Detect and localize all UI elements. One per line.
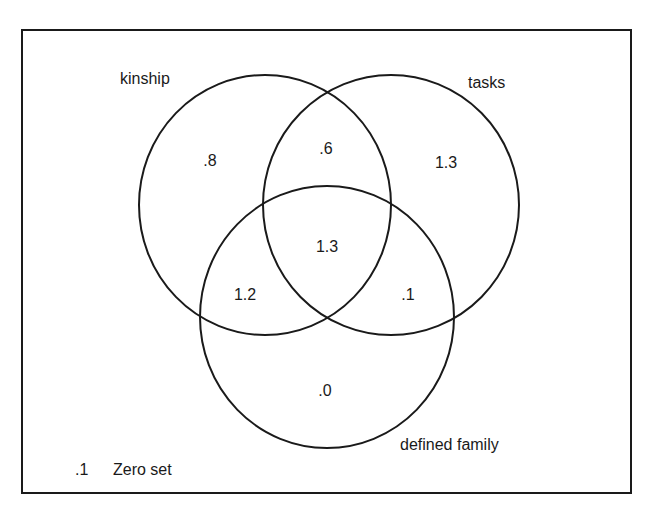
region-tasks-only: 1.3 bbox=[435, 154, 457, 171]
set-label-tasks: tasks bbox=[468, 74, 505, 91]
set-label-kinship: kinship bbox=[120, 70, 170, 87]
region-family-only: .0 bbox=[318, 382, 331, 399]
legend-label: Zero set bbox=[113, 461, 172, 478]
region-all-three: 1.3 bbox=[316, 238, 338, 255]
kinship-circle bbox=[139, 75, 391, 335]
region-kinship-only: .8 bbox=[203, 152, 216, 169]
region-kinship-family: 1.2 bbox=[234, 286, 256, 303]
venn-diagram: kinship tasks defined family .8 .6 1.3 1… bbox=[0, 0, 654, 517]
region-tasks-family: .1 bbox=[401, 286, 414, 303]
region-kinship-tasks: .6 bbox=[319, 140, 332, 157]
legend-value: .1 bbox=[75, 461, 88, 478]
set-label-defined-family: defined family bbox=[400, 436, 499, 453]
